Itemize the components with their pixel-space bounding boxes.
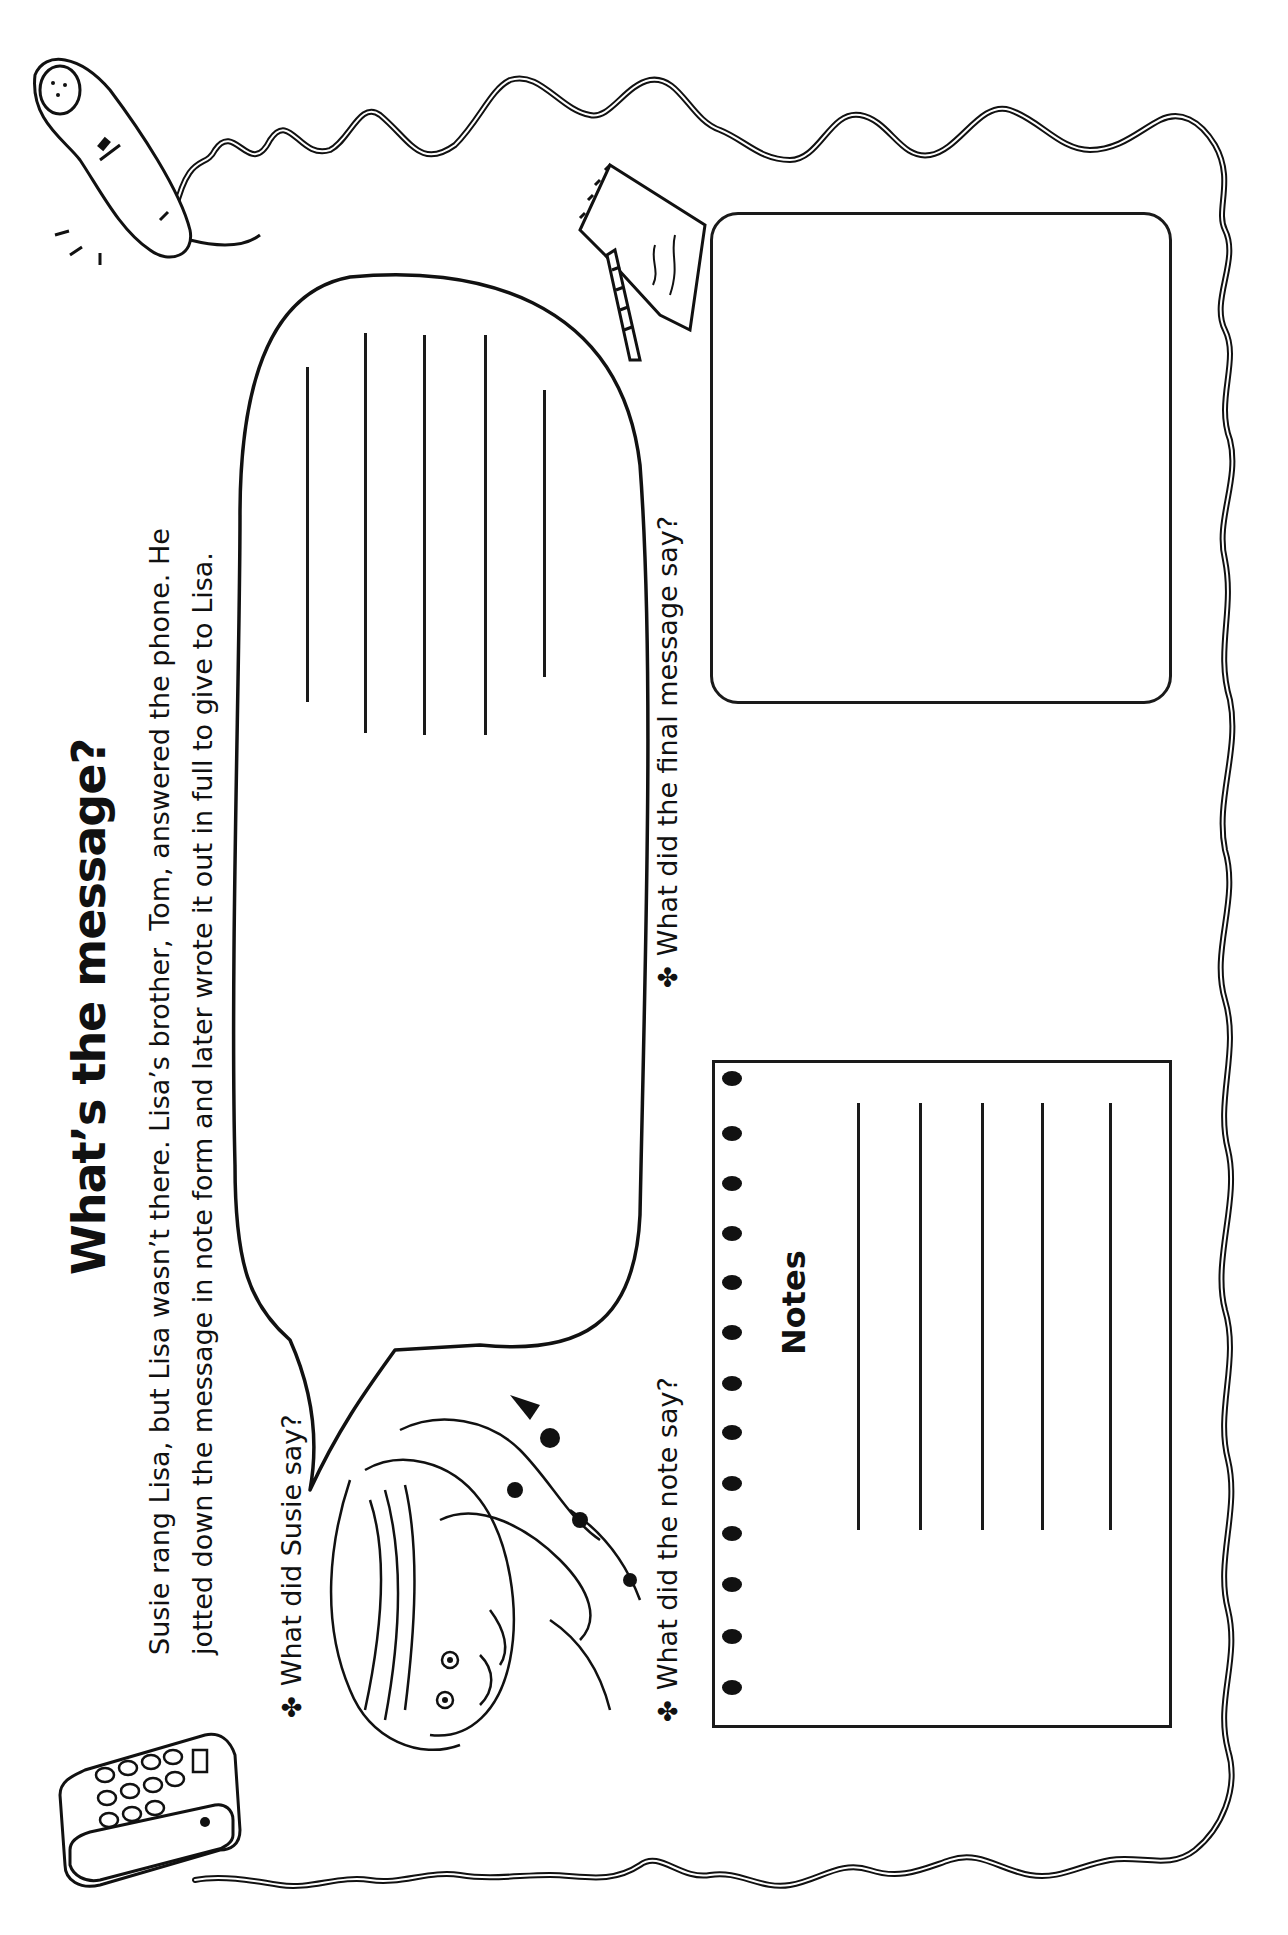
- speech-bubble: [220, 265, 680, 1425]
- prompt-susie-say: ✤What did Susie say?: [276, 1414, 307, 1718]
- notes-label: Notes: [775, 1250, 813, 1355]
- speech-line-1: [306, 367, 309, 702]
- ring-hole-icon: [722, 1476, 742, 1491]
- prompt-text: What did Susie say?: [276, 1414, 307, 1686]
- prompt-text: What did the final message say?: [652, 516, 683, 956]
- page-title: What’s the message?: [62, 739, 116, 1275]
- notes-line-4: [1041, 1103, 1044, 1530]
- prompt-text: What did the note say?: [652, 1377, 683, 1690]
- intro-line-1: Susie rang Lisa, but Lisa wasn’t there. …: [138, 528, 181, 1655]
- speech-line-3: [423, 335, 426, 735]
- club-bullet-icon: ✤: [653, 1700, 683, 1722]
- ring-hole-icon: [722, 1680, 742, 1695]
- ring-hole-icon: [722, 1126, 742, 1141]
- prompt-final-message-say: ✤What did the final message say?: [652, 516, 683, 988]
- ring-hole-icon: [722, 1577, 742, 1592]
- club-bullet-icon: ✤: [653, 966, 683, 988]
- telephone-handset-icon: [20, 40, 220, 280]
- ring-hole-icon: [722, 1275, 742, 1290]
- girl-on-phone-illustration: [310, 1390, 650, 1770]
- ring-hole-icon: [722, 1325, 742, 1340]
- ring-hole-icon: [722, 1071, 742, 1086]
- club-bullet-icon: ✤: [277, 1696, 307, 1718]
- intro-paragraph: Susie rang Lisa, but Lisa wasn’t there. …: [138, 528, 224, 1655]
- speech-line-5: [543, 390, 546, 677]
- ring-hole-icon: [722, 1526, 742, 1541]
- prompt-note-say: ✤What did the note say?: [652, 1377, 683, 1722]
- ring-hole-icon: [722, 1425, 742, 1440]
- ring-hole-icon: [722, 1226, 742, 1241]
- notes-box[interactable]: Notes: [712, 1060, 1172, 1728]
- notes-line-2: [919, 1103, 922, 1530]
- speech-line-4: [484, 335, 487, 735]
- ring-hole-icon: [722, 1376, 742, 1391]
- final-message-box[interactable]: [710, 212, 1172, 704]
- notes-line-3: [981, 1103, 984, 1530]
- desk-telephone-icon: [55, 1730, 255, 1910]
- ring-hole-icon: [722, 1629, 742, 1644]
- notes-line-5: [1109, 1103, 1112, 1530]
- intro-line-2: jotted down the message in note form and…: [181, 528, 224, 1655]
- notes-line-1: [857, 1103, 860, 1530]
- speech-line-2: [364, 333, 367, 733]
- ring-hole-icon: [722, 1176, 742, 1191]
